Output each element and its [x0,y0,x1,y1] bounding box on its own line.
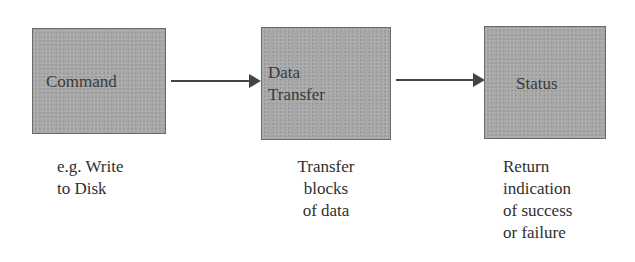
caption-line: e.g. Write [57,156,124,178]
command-label-line: Command [46,72,117,91]
arrow-command-to-transfer [171,80,259,82]
status-box: Status [484,26,606,139]
caption-line: Transfer [286,156,366,178]
data-transfer-label-line-2: Transfer [268,84,325,106]
caption-line: blocks [286,178,366,200]
data-transfer-box: Data Transfer [261,27,391,140]
caption-line: or failure [503,222,572,244]
arrow-transfer-to-status [396,79,483,81]
status-label-line: Status [516,74,558,93]
arrow-head-icon [249,74,261,88]
caption-line: of success [503,200,572,222]
status-caption: Return indication of success or failure [503,156,572,244]
status-label: Status [516,73,558,95]
caption-line: indication [503,178,572,200]
caption-line: of data [286,200,366,222]
command-box: Command [32,28,166,134]
caption-line: Return [503,156,572,178]
data-transfer-label: Data Transfer [268,62,325,106]
command-label: Command [46,71,117,93]
data-transfer-label-line-1: Data [268,62,325,84]
command-caption: e.g. Write to Disk [57,156,124,200]
caption-line: to Disk [57,178,124,200]
data-transfer-caption: Transfer blocks of data [286,156,366,222]
